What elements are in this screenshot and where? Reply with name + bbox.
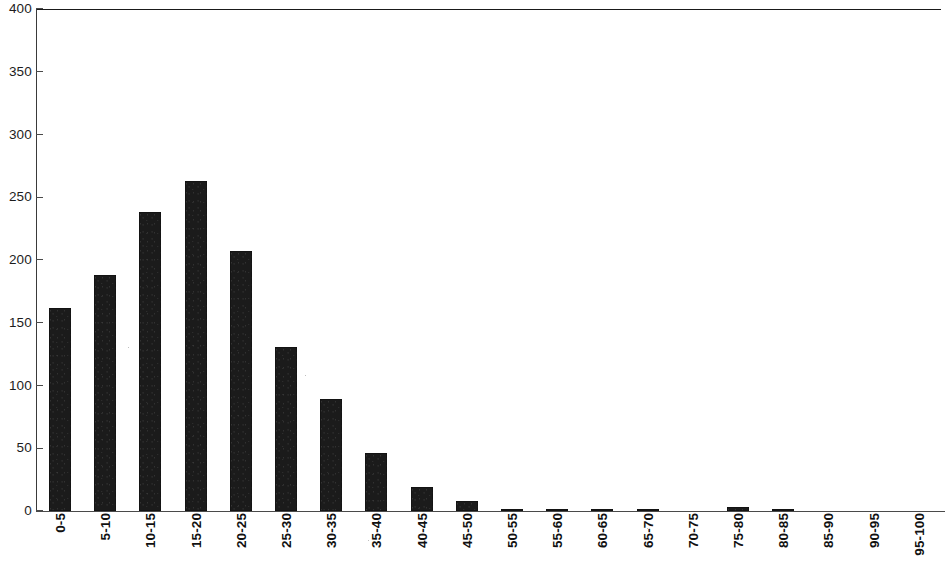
y-axis-tick-label: 50 (0, 441, 32, 455)
x-axis-tick-label-text: 85-90 (822, 513, 834, 548)
x-axis-tick-label: 45-50 (456, 513, 478, 565)
x-axis-tick-label: 55-60 (546, 513, 568, 565)
bar (546, 509, 568, 511)
x-axis-tick-label: 35-40 (365, 513, 387, 565)
x-axis-tick-label: 20-25 (230, 513, 252, 565)
x-axis-tick-label-text: 55-60 (551, 513, 563, 548)
y-axis-tick-label: 250 (0, 190, 32, 204)
x-axis-tick-label: 5-10 (94, 513, 116, 565)
y-axis-tick-label: 200 (0, 253, 32, 267)
x-axis-tick-label-text: 10-15 (144, 513, 156, 548)
bar (411, 487, 433, 511)
y-axis-tick-label: 100 (0, 379, 32, 393)
scan-speck (368, 540, 369, 541)
x-axis-tick-label-text: 90-95 (868, 513, 880, 548)
x-axis-tick-label: 0-5 (49, 513, 71, 565)
x-axis-tick-label-text: 5-10 (99, 513, 111, 540)
x-axis-tick-label-text: 0-5 (54, 513, 66, 533)
x-axis-tick-label: 25-30 (275, 513, 297, 565)
x-axis-line (36, 511, 945, 512)
bar (139, 212, 161, 511)
x-axis-tick-label-text: 95-100 (913, 513, 925, 556)
bar (320, 399, 342, 511)
x-axis-tick-label: 85-90 (817, 513, 839, 565)
y-axis-tick-label: 350 (0, 65, 32, 79)
bar (49, 308, 71, 511)
x-axis-tick-label: 15-20 (185, 513, 207, 565)
bar-series (36, 9, 941, 511)
x-axis-tick-label: 30-35 (320, 513, 342, 565)
x-axis-tick-label-text: 80-85 (777, 513, 789, 548)
x-axis-tick-label-text: 25-30 (280, 513, 292, 548)
y-axis-tick-label: 0 (0, 504, 32, 518)
x-axis-tick-label-text: 65-70 (642, 513, 654, 548)
x-axis-tick-label: 60-65 (591, 513, 613, 565)
x-axis-tick-label-text: 40-45 (416, 513, 428, 548)
x-axis-tick-label-text: 20-25 (235, 513, 247, 548)
x-axis-tick-label: 50-55 (501, 513, 523, 565)
y-axis-tick-label: 300 (0, 128, 32, 142)
x-axis-tick-label: 95-100 (908, 513, 930, 565)
scan-speck (128, 347, 129, 348)
bar (772, 509, 794, 511)
scan-speck (305, 375, 306, 376)
x-axis-tick-label-text: 60-65 (596, 513, 608, 548)
bar (185, 181, 207, 511)
x-axis-tick-label: 75-80 (727, 513, 749, 565)
x-axis-tick-label: 90-95 (863, 513, 885, 565)
x-axis-tick-label-text: 75-80 (732, 513, 744, 548)
scan-speck (647, 528, 648, 529)
x-axis-tick-label: 65-70 (637, 513, 659, 565)
bar (637, 509, 659, 511)
x-axis-tick-label-text: 50-55 (506, 513, 518, 548)
bar (365, 453, 387, 511)
x-axis-tick-label-text: 30-35 (325, 513, 337, 548)
histogram-chart: 050100150200250300350400 0-55-1010-1515-… (0, 0, 947, 566)
bar (501, 509, 523, 511)
x-axis-tick-label-text: 70-75 (687, 513, 699, 548)
bar (591, 509, 613, 511)
x-axis-tick-label-text: 45-50 (461, 513, 473, 548)
bar (456, 501, 478, 511)
x-axis-tick-label-text: 15-20 (190, 513, 202, 548)
bar (727, 507, 749, 511)
x-axis-tick-labels: 0-55-1010-1515-2020-2525-3030-3535-4040-… (36, 513, 941, 566)
bar (230, 251, 252, 511)
x-axis-tick-label: 10-15 (139, 513, 161, 565)
bar (94, 275, 116, 511)
y-axis-tick-label: 400 (0, 2, 32, 16)
x-axis-tick-label-text: 35-40 (370, 513, 382, 548)
x-axis-tick-label: 40-45 (411, 513, 433, 565)
y-axis-tick-label: 150 (0, 316, 32, 330)
bar (275, 347, 297, 511)
x-axis-tick-label: 80-85 (772, 513, 794, 565)
x-axis-tick-label: 70-75 (682, 513, 704, 565)
